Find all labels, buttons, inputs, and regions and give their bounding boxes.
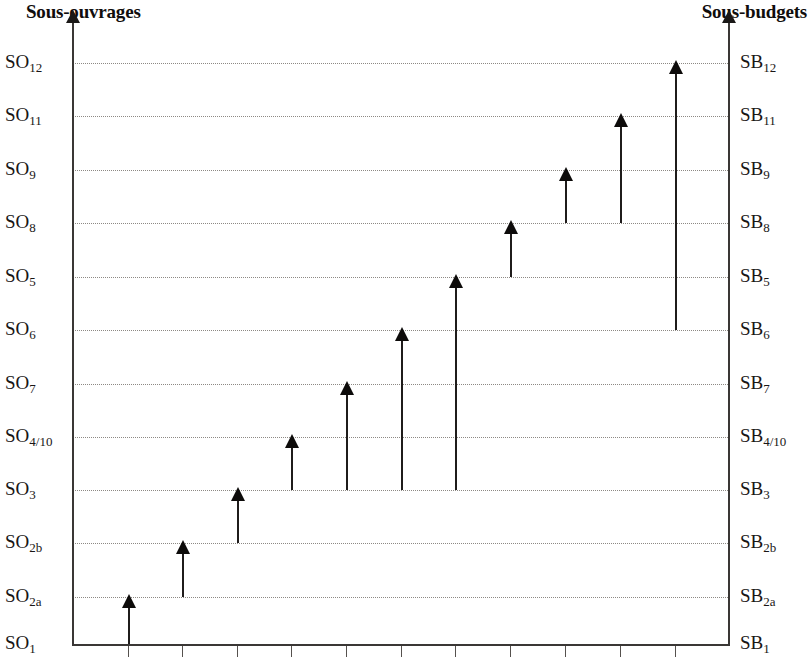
tick-label-base: SB [740, 632, 763, 653]
x-axis-tick [237, 646, 238, 657]
gridline [72, 63, 730, 64]
right-tick-label-SB11: SB11 [740, 105, 776, 127]
right-tick-label-SB3: SB3 [740, 479, 770, 501]
tick-label-subscript: 4/10 [763, 434, 786, 449]
left-tick-label-SO2b: SO2b [5, 532, 63, 554]
left-tick-label-SO5: SO5 [5, 266, 63, 288]
arrow-head-icon [669, 60, 683, 74]
x-axis-tick [401, 646, 402, 657]
gridline [72, 170, 730, 171]
arrow-head-icon [176, 540, 190, 554]
tick-label-base: SO [5, 632, 29, 653]
gridline [72, 597, 730, 598]
left-tick-label-SO2a: SO2a [5, 586, 63, 608]
x-axis-tick [675, 646, 676, 657]
arrow-shaft [455, 287, 457, 490]
tick-label-subscript: 2a [29, 594, 41, 609]
tick-label-subscript: 3 [29, 487, 36, 502]
tick-label-subscript: 1 [763, 641, 770, 656]
right-axis-arrow-icon [722, 10, 736, 23]
tick-label-subscript: 3 [763, 487, 770, 502]
left-tick-label-SO7: SO7 [5, 373, 63, 395]
left-tick-label-SO1: SO1 [5, 633, 63, 655]
gridline [72, 277, 730, 278]
right-tick-label-SB7: SB7 [740, 373, 770, 395]
x-axis-tick [620, 646, 621, 657]
tick-label-base: SB [740, 318, 763, 339]
chart-root: Sous-ouvrages Sous-budgets SO12SO11SO9SO… [0, 0, 809, 658]
tick-label-base: SB [740, 425, 763, 446]
arrow-head-icon [122, 594, 136, 608]
left-tick-label-SO4/10: SO4/10 [5, 426, 63, 448]
x-axis-tick [510, 646, 511, 657]
tick-label-subscript: 2a [763, 594, 775, 609]
right-tick-label-SB1: SB1 [740, 633, 770, 655]
arrow-head-icon [395, 327, 409, 341]
right-tick-label-SB9: SB9 [740, 159, 770, 181]
tick-label-subscript: 11 [29, 113, 42, 128]
left-tick-label-SO6: SO6 [5, 319, 63, 341]
tick-label-base: SB [740, 158, 763, 179]
arrow-head-icon [449, 274, 463, 288]
right-tick-label-SB6: SB6 [740, 319, 770, 341]
x-axis-tick [182, 646, 183, 657]
arrow-shaft [346, 394, 348, 490]
tick-label-base: SO [5, 211, 29, 232]
arrow-head-icon [614, 113, 628, 127]
left-tick-label-SO12: SO12 [5, 52, 63, 74]
tick-label-subscript: 11 [763, 113, 776, 128]
right-axis-line [728, 22, 730, 646]
right-tick-label-SB12: SB12 [740, 52, 776, 74]
arrow-shaft [675, 73, 677, 330]
arrow-shaft [128, 607, 130, 644]
tick-label-subscript: 4/10 [29, 434, 52, 449]
arrow-shaft [510, 233, 512, 277]
arrow-shaft [565, 180, 567, 223]
left-tick-label-SO9: SO9 [5, 159, 63, 181]
right-tick-label-SB4/10: SB4/10 [740, 426, 786, 448]
tick-label-subscript: 5 [29, 274, 36, 289]
tick-label-base: SO [5, 585, 29, 606]
arrow-head-icon [559, 167, 573, 181]
tick-label-base: SO [5, 425, 29, 446]
tick-label-base: SB [740, 211, 763, 232]
tick-label-subscript: 2b [29, 540, 42, 555]
tick-label-base: SB [740, 51, 763, 72]
left-axis-line [72, 22, 74, 646]
gridline [72, 543, 730, 544]
tick-label-base: SB [740, 478, 763, 499]
left-tick-label-SO3: SO3 [5, 479, 63, 501]
tick-label-base: SO [5, 318, 29, 339]
left-tick-label-SO8: SO8 [5, 212, 63, 234]
arrow-shaft [182, 553, 184, 597]
left-tick-label-SO11: SO11 [5, 105, 63, 127]
tick-label-base: SO [5, 104, 29, 125]
tick-label-subscript: 12 [763, 60, 776, 75]
arrow-head-icon [340, 381, 354, 395]
tick-label-subscript: 6 [763, 327, 770, 342]
tick-label-subscript: 5 [763, 274, 770, 289]
tick-label-subscript: 9 [29, 167, 36, 182]
tick-label-base: SB [740, 104, 763, 125]
arrow-shaft [620, 126, 622, 223]
tick-label-base: SB [740, 531, 763, 552]
tick-label-subscript: 9 [763, 167, 770, 182]
arrow-shaft [401, 340, 403, 490]
right-tick-label-SB2b: SB2b [740, 532, 776, 554]
tick-label-base: SO [5, 158, 29, 179]
arrow-head-icon [504, 220, 518, 234]
right-tick-label-SB8: SB8 [740, 212, 770, 234]
tick-label-base: SO [5, 265, 29, 286]
tick-label-subscript: 8 [763, 220, 770, 235]
tick-label-subscript: 1 [29, 641, 36, 656]
gridline [72, 490, 730, 491]
tick-label-base: SO [5, 372, 29, 393]
tick-label-base: SO [5, 531, 29, 552]
arrow-shaft [237, 500, 239, 543]
tick-label-base: SB [740, 585, 763, 606]
arrow-head-icon [285, 434, 299, 448]
tick-label-subscript: 12 [29, 60, 42, 75]
tick-label-subscript: 8 [29, 220, 36, 235]
x-axis-tick [565, 646, 566, 657]
tick-label-base: SO [5, 478, 29, 499]
